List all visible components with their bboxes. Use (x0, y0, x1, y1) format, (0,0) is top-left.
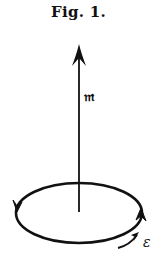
moment-label: 𝔪 (84, 88, 95, 105)
diagram-canvas (0, 0, 157, 261)
emf-curve (118, 235, 137, 248)
emf-label: ε (143, 234, 151, 250)
